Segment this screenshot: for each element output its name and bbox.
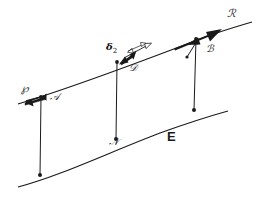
geometry-figure: ℘ 𝒜 δ2 𝒟 ℬ ℛ 𝒩 E [0,0,275,204]
transversal-b [194,39,196,110]
vector-r [174,29,222,50]
label-b-vector: ℬ [206,44,214,54]
label-n-point: 𝒩 [109,137,119,147]
node-d-upper [115,60,119,64]
label-d-point: 𝒟 [129,63,137,73]
label-r-point: ℛ [227,8,236,19]
label-delta-2: δ2 [106,42,117,55]
transversal-d [116,62,117,139]
label-a-vector: 𝒜 [50,92,59,102]
label-delta-subscript: 2 [113,47,117,55]
node-p-lower [38,173,42,177]
node-b-lower [192,108,196,112]
label-delta-letter: δ [106,41,113,52]
label-region-e: E [167,130,176,143]
figure-canvas [0,0,275,204]
label-p-point: ℘ [21,83,29,94]
lower-curve [18,111,228,187]
transversal-p [40,97,41,175]
